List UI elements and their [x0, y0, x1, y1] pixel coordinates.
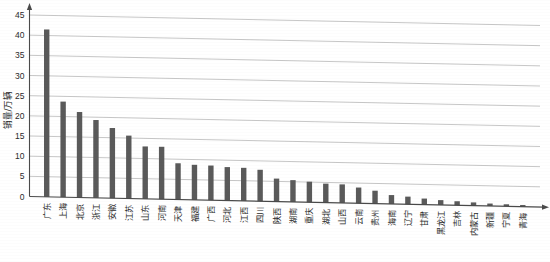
- bar: [60, 102, 65, 198]
- gridline: [30, 136, 541, 147]
- bar: [110, 128, 115, 198]
- gridline: [30, 35, 541, 46]
- x-tick-label: 重庆: [304, 208, 314, 224]
- x-tick-labels: 广东上海北京浙江安徽江苏山东河南天津福建广西河北江西四川陕西湖南重庆湖北山西云南…: [42, 203, 528, 236]
- bar: [454, 201, 459, 205]
- x-tick-label: 新疆: [485, 212, 495, 228]
- y-tick-label: 45: [15, 10, 25, 20]
- y-tick-label: 25: [15, 91, 25, 101]
- x-tick-label: 黑龙江: [436, 211, 446, 235]
- x-tick-label: 内蒙古: [469, 212, 479, 236]
- x-tick-label: 天津: [173, 206, 183, 222]
- bar: [159, 147, 164, 199]
- y-tick-label: 0: [20, 192, 25, 202]
- bar: [143, 146, 148, 198]
- bar: [257, 170, 262, 201]
- bar: [405, 197, 410, 205]
- bar: [307, 182, 312, 203]
- x-tick-label: 山东: [140, 205, 150, 221]
- y-axis-title: 销量/万辆: [2, 91, 13, 130]
- axes: [27, 3, 549, 210]
- x-tick-label: 广西: [206, 206, 216, 222]
- x-tick-label: 青海: [518, 213, 528, 229]
- gridline: [30, 76, 541, 87]
- y-tick-label: 5: [20, 171, 25, 181]
- x-tick-label: 湖南: [288, 208, 298, 224]
- bar: [438, 200, 443, 205]
- gridline: [30, 176, 541, 187]
- bar: [208, 166, 213, 201]
- x-tick-label: 江苏: [124, 205, 134, 221]
- bar: [340, 184, 345, 203]
- gridline: [30, 96, 541, 107]
- chart-canvas: 051015202530354045 广东上海北京浙江安徽江苏山东河南天津福建广…: [0, 0, 550, 262]
- gridlines: [30, 15, 541, 187]
- bar: [77, 112, 82, 198]
- y-axis-arrow-icon: [27, 3, 32, 10]
- x-tick-label: 福建: [190, 206, 200, 222]
- x-tick-label: 北京: [75, 204, 85, 220]
- gridline: [30, 116, 541, 127]
- bar: [274, 179, 279, 202]
- bar-chart: 051015202530354045 广东上海北京浙江安徽江苏山东河南天津福建广…: [0, 0, 550, 262]
- y-tick-label: 35: [15, 50, 25, 60]
- bar: [389, 195, 394, 204]
- bar: [192, 165, 197, 200]
- bar: [93, 120, 98, 198]
- y-tick-label: 30: [15, 71, 25, 81]
- y-tick-labels: 051015202530354045: [15, 10, 25, 202]
- bar: [241, 168, 246, 201]
- gridline: [30, 156, 541, 167]
- x-tick-label: 辽宁: [403, 210, 413, 226]
- bar: [356, 188, 361, 204]
- y-tick-label: 10: [15, 151, 25, 161]
- bar: [225, 167, 230, 200]
- x-tick-label: 河北: [222, 207, 232, 223]
- x-tick-label: 湖北: [321, 209, 331, 225]
- bar: [290, 180, 295, 202]
- x-tick-label: 浙江: [91, 204, 101, 220]
- x-axis-arrow-icon: [542, 205, 549, 210]
- bar-series: [44, 29, 525, 206]
- x-tick-label: 海南: [387, 210, 397, 226]
- x-tick-label: 安徽: [107, 204, 117, 220]
- x-tick-label: 上海: [58, 203, 68, 219]
- gridline: [30, 15, 541, 26]
- x-tick-label: 四川: [255, 207, 265, 223]
- x-tick-label: 山西: [337, 209, 347, 225]
- x-tick-label: 江西: [239, 207, 249, 223]
- x-tick-label: 河南: [157, 205, 167, 221]
- x-tick-label: 广东: [42, 203, 52, 219]
- bar: [175, 163, 180, 199]
- bar: [44, 29, 49, 196]
- bar: [372, 191, 377, 204]
- y-tick-label: 40: [15, 30, 25, 40]
- x-tick-label: 吉林: [452, 211, 462, 227]
- y-tick-label: 15: [15, 131, 25, 141]
- y-axis-title-text: 销量/万辆: [2, 91, 13, 130]
- x-tick-label: 宁夏: [501, 212, 511, 228]
- bar: [323, 184, 328, 203]
- x-tick-label: 甘肃: [419, 211, 429, 227]
- bar: [422, 199, 427, 205]
- x-tick-label: 贵州: [370, 210, 380, 226]
- bar: [126, 136, 131, 199]
- y-tick-label: 20: [15, 111, 25, 121]
- x-tick-label: 云南: [354, 209, 364, 225]
- gridline: [30, 55, 541, 66]
- x-tick-label: 陕西: [272, 208, 282, 224]
